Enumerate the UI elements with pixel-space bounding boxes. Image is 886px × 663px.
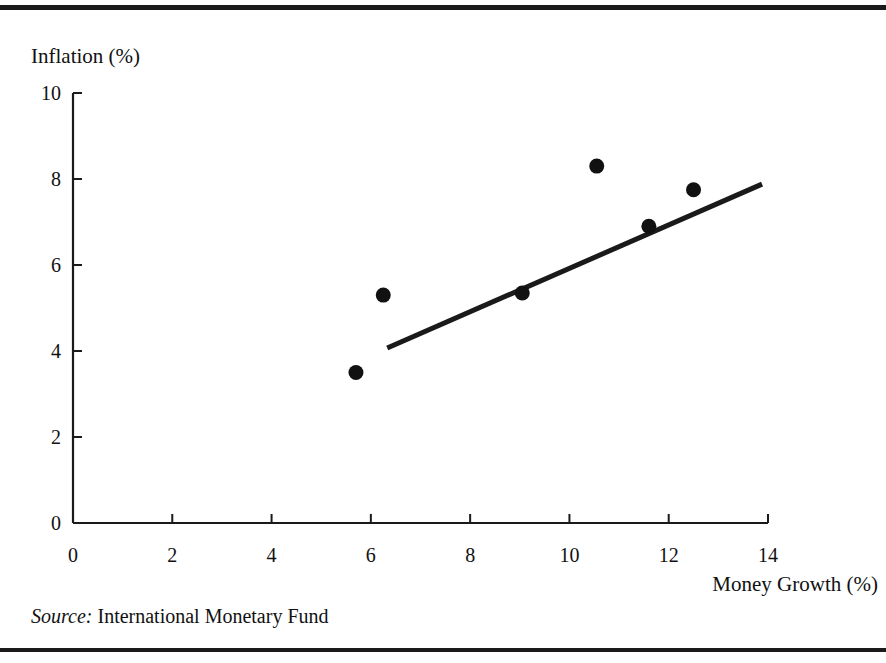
y-tick-label: 0 [21,513,61,533]
x-tick-label: 6 [351,545,391,565]
y-tick-label: 2 [21,427,61,447]
trend-line [387,184,762,348]
scatter-point [515,285,530,300]
x-tick-label: 2 [152,545,192,565]
source-note: Source: International Monetary Fund [31,606,329,626]
scatter-point [589,159,604,174]
y-axis-ticks [73,93,82,437]
y-axis-title: Inflation (%) [31,46,140,67]
scatter-point [376,288,391,303]
x-tick-label: 0 [53,545,93,565]
scatter-point [641,219,656,234]
y-tick-label: 6 [21,255,61,275]
x-axis-title: Money Growth (%) [712,574,878,595]
y-tick-label: 4 [21,341,61,361]
x-tick-label: 8 [450,545,490,565]
y-tick-label: 10 [21,83,61,103]
x-tick-label: 4 [252,545,292,565]
chart-axes [73,93,768,523]
scatter-point [348,365,363,380]
x-axis-ticks [172,514,768,523]
x-tick-label: 10 [549,545,589,565]
scatter-point [686,182,701,197]
x-tick-label: 14 [748,545,788,565]
y-tick-label: 8 [21,169,61,189]
figure-bottom-rule [0,648,886,652]
source-value: International Monetary Fund [97,605,328,627]
trend-line-segment [387,184,762,348]
scatter-points [348,159,701,380]
x-tick-label: 12 [649,545,689,565]
chart-plot-area: 0246810 02468101214 Inflation (%) Money … [0,0,886,663]
source-label: Source: [31,605,92,627]
